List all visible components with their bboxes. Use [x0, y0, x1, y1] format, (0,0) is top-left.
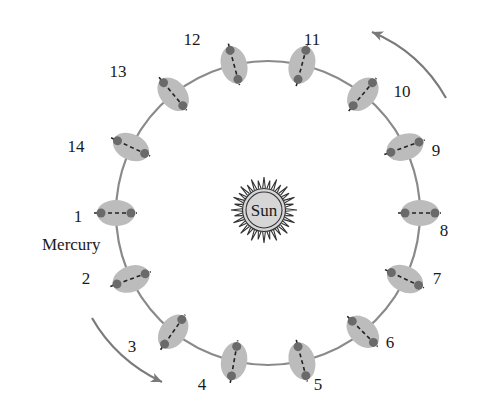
arrowhead-icon	[370, 27, 384, 40]
position-label: 14	[68, 137, 86, 156]
position-label: 11	[304, 30, 320, 49]
diagram-canvas: Sun 1234567891011121314 Mercury	[0, 0, 484, 410]
mercury-position-2: 2	[82, 260, 155, 299]
mercury-position-3: 3	[128, 307, 196, 357]
position-label: 9	[432, 141, 441, 160]
position-label: 8	[440, 221, 449, 240]
mercury-position-4: 4	[198, 338, 251, 394]
mercury-position-8: 8	[398, 200, 448, 240]
sun-label: Sun	[251, 201, 278, 220]
mercury-position-10: 10	[339, 70, 411, 120]
position-label: 12	[184, 30, 201, 49]
mercury-position-11: 11	[284, 30, 321, 89]
surface-marker-icon	[127, 209, 136, 218]
position-label: 6	[386, 333, 395, 352]
mercury-orbit-diagram: Sun 1234567891011121314 Mercury	[0, 0, 484, 410]
mercury-position-6: 6	[338, 307, 394, 356]
position-label: 10	[394, 82, 411, 101]
surface-marker-icon	[431, 209, 440, 218]
mercury-position-13: 13	[110, 62, 197, 119]
arrowhead-icon	[150, 373, 164, 387]
position-label: 4	[198, 375, 207, 394]
mercury-label: Mercury	[42, 235, 101, 254]
surface-marker-icon	[97, 209, 106, 218]
position-label: 3	[128, 337, 137, 356]
mercury-position-14: 14	[68, 126, 156, 168]
position-label: 5	[314, 375, 323, 394]
position-label: 2	[82, 269, 91, 288]
position-label: 7	[433, 269, 442, 288]
position-label: 13	[110, 62, 127, 81]
mercury-position-1: 1	[74, 200, 137, 226]
position-label: 1	[74, 207, 83, 226]
mercury-position-5: 5	[284, 337, 323, 394]
sun: Sun	[231, 177, 297, 243]
surface-marker-icon	[401, 209, 410, 218]
